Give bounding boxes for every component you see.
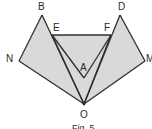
figure-caption: Fig. 5 <box>72 123 95 129</box>
label-a: A <box>80 62 87 73</box>
label-o: O <box>80 109 88 120</box>
geometry-figure: B D E F N M A O Fig. 5 <box>0 0 152 129</box>
label-f: F <box>104 22 110 33</box>
label-m: M <box>146 53 152 64</box>
label-e: E <box>53 22 60 33</box>
point-o-dot <box>83 103 86 106</box>
label-d: D <box>118 1 125 12</box>
label-b: B <box>38 1 45 12</box>
label-n: N <box>6 53 13 64</box>
